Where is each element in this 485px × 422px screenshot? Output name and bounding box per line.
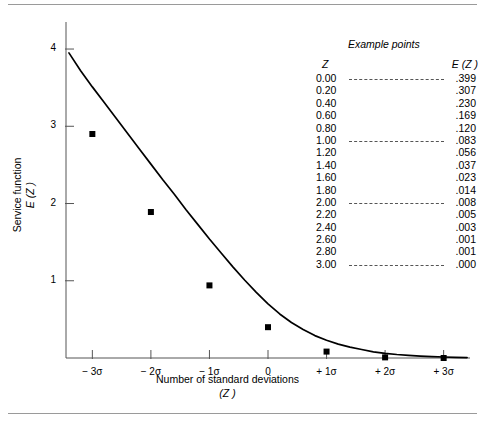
table-cell-ez: .003	[456, 221, 476, 233]
leader-line	[349, 203, 444, 204]
table-cell-z: 2.60	[316, 233, 336, 245]
table-row: 2.00.008	[316, 196, 478, 208]
table-cell-ez: .307	[456, 84, 476, 96]
table-header-z: Z	[322, 58, 328, 70]
table-cell-z: 1.80	[316, 184, 336, 196]
table-cell-z: 2.20	[316, 208, 336, 220]
table-row: 0.60.169	[316, 109, 478, 121]
table-cell-ez: .008	[456, 196, 476, 208]
table-row: 3.00.000	[316, 258, 478, 270]
table-row: 0.20.307	[316, 84, 478, 96]
x-axis-title-line2: (Z )	[219, 387, 235, 399]
table-cell-ez: .083	[456, 134, 476, 146]
table-cell-z: 1.00	[316, 134, 336, 146]
table-cell-z: 2.80	[316, 245, 336, 257]
leader-line	[349, 265, 444, 266]
table-row: 0.00.399	[316, 72, 478, 84]
table-cell-z: 0.00	[316, 72, 336, 84]
table-row: 2.20.005	[316, 208, 478, 220]
table-cell-z: 0.20	[316, 84, 336, 96]
y-tick-label: 1	[34, 274, 56, 285]
table-cell-ez: .120	[456, 122, 476, 134]
example-points-table: Z E (Z ) 0.00.3990.20.3070.40.2300.60.16…	[316, 58, 478, 270]
table-row: 1.00.083	[316, 134, 478, 146]
x-tick-label: + 3σ	[422, 366, 466, 377]
table-cell-ez: .014	[456, 184, 476, 196]
table-cell-ez: .169	[456, 109, 476, 121]
data-point-marker	[148, 209, 154, 215]
x-axis-title: Number of standard deviations (Z )	[55, 372, 400, 400]
table-cell-z: 0.80	[316, 122, 336, 134]
table-cell-ez: .230	[456, 97, 476, 109]
table-cell-ez: .056	[456, 146, 476, 158]
y-axis-title: Service function E (Z )	[11, 135, 37, 255]
data-point-marker	[89, 131, 95, 137]
data-point-marker	[206, 282, 212, 288]
table-body: 0.00.3990.20.3070.40.2300.60.1690.80.120…	[316, 72, 478, 270]
table-cell-z: 2.40	[316, 221, 336, 233]
data-point-marker	[441, 355, 447, 361]
table-cell-ez: .001	[456, 245, 476, 257]
leader-line	[349, 79, 444, 80]
table-cell-z: 0.40	[316, 97, 336, 109]
y-axis-title-line1: Service function	[11, 158, 23, 233]
table-cell-ez: .399	[456, 72, 476, 84]
y-tick-label: 3	[34, 119, 56, 130]
table-row: 0.80.120	[316, 122, 478, 134]
table-cell-ez: .037	[456, 159, 476, 171]
table-row: 1.40.037	[316, 159, 478, 171]
table-row: 1.80.014	[316, 184, 478, 196]
y-tick-label: 4	[34, 42, 56, 53]
table-header-ez: E (Z )	[452, 58, 478, 70]
table-cell-z: 0.60	[316, 109, 336, 121]
data-point-marker	[265, 324, 271, 330]
table-cell-z: 3.00	[316, 258, 336, 270]
table-row: 0.40.230	[316, 97, 478, 109]
y-axis-title-line2: E (Z )	[24, 182, 36, 208]
table-cell-z: 2.00	[316, 196, 336, 208]
table-cell-z: 1.60	[316, 171, 336, 183]
table-row: 2.40.003	[316, 221, 478, 233]
figure-container: 1234 − 3σ− 2σ− 1σ0+ 1σ+ 2σ+ 3σ Service f…	[0, 0, 485, 422]
data-point-marker	[324, 349, 330, 355]
table-cell-ez: .000	[456, 258, 476, 270]
table-cell-z: 1.20	[316, 146, 336, 158]
data-point-marker	[382, 354, 388, 360]
leader-line	[349, 141, 444, 142]
table-header-row: Z E (Z )	[316, 58, 478, 72]
table-row: 1.60.023	[316, 171, 478, 183]
table-cell-ez: .005	[456, 208, 476, 220]
y-tick-label: 2	[34, 197, 56, 208]
table-row: 1.20.056	[316, 146, 478, 158]
example-points-heading: Example points	[348, 38, 420, 50]
table-cell-ez: .001	[456, 233, 476, 245]
table-row: 2.80.001	[316, 245, 478, 257]
table-cell-ez: .023	[456, 171, 476, 183]
x-axis-title-line1: Number of standard deviations	[156, 373, 299, 385]
table-cell-z: 1.40	[316, 159, 336, 171]
table-row: 2.60.001	[316, 233, 478, 245]
